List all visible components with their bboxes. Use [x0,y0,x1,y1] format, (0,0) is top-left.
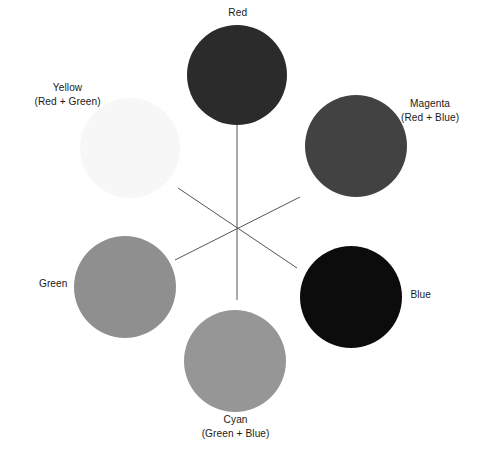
red-label: Red [228,5,247,19]
magenta-label: Magenta(Red + Blue) [401,96,459,124]
red-name: Red [228,5,247,19]
cyan-mix: (Green + Blue) [201,426,269,440]
yellow-mix: (Red + Green) [34,94,100,108]
green-label: Green [39,276,68,290]
color-wheel-diagram [0,0,479,462]
yellow-label: Yellow(Red + Green) [34,80,100,108]
green-circle [74,236,176,338]
magenta-circle [305,95,407,197]
green-name: Green [39,276,68,290]
yellow-circle [80,98,180,198]
blue-circle [300,246,402,348]
spokes [175,125,300,300]
magenta-name: Magenta [401,96,459,110]
red-circle [187,25,287,125]
yellow-name: Yellow [34,80,100,94]
color-circles [74,25,407,412]
magenta-mix: (Red + Blue) [401,110,459,124]
cyan-label: Cyan(Green + Blue) [201,412,269,440]
cyan-circle [184,310,286,412]
blue-name: Blue [410,287,431,301]
cyan-name: Cyan [201,412,269,426]
blue-label: Blue [410,287,431,301]
